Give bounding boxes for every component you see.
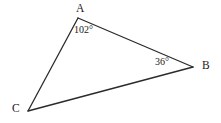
triangle-drawing (0, 0, 221, 123)
vertex-label-c: C (12, 103, 20, 115)
angle-label-a: 102° (74, 25, 93, 35)
edge-ca-line (28, 18, 78, 111)
geometry-figure: A B C 102° 36° (0, 0, 221, 123)
edge-ab-line (78, 18, 193, 67)
vertex-label-a: A (76, 3, 84, 15)
angle-label-b: 36° (155, 57, 169, 67)
vertex-label-b: B (202, 60, 210, 72)
edge-bc-line (28, 67, 193, 111)
